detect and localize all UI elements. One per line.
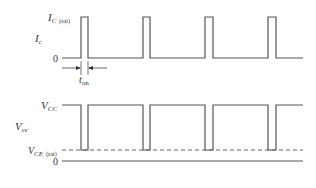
switching-waveform-diagram: IC(sat) Ic 0 ton VCC Vce VCE(sat) 0	[0, 0, 316, 188]
voltage-zero-label: 0	[53, 156, 58, 167]
vce-trace	[62, 105, 303, 150]
vce-axis-label: Vce	[15, 120, 28, 134]
collector-current-waveform	[62, 17, 303, 58]
collector-current-trace	[62, 17, 303, 58]
current-zero-label: 0	[53, 53, 58, 64]
collector-emitter-voltage-waveform	[62, 105, 303, 161]
vcc-label: VCC	[41, 99, 57, 113]
t-on-label: ton	[79, 74, 89, 87]
ic-sat-label: IC(sat)	[47, 11, 70, 25]
t-on-annotation	[62, 61, 107, 75]
ic-axis-label: Ic	[34, 32, 43, 46]
